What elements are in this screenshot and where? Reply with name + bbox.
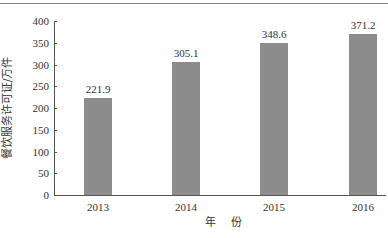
x-axis [54, 195, 386, 196]
bar-2016 [349, 34, 377, 195]
bar-value-label: 305.1 [161, 48, 211, 59]
bar-2015 [260, 43, 288, 195]
y-tick [54, 173, 57, 174]
y-tick-label: 200 [19, 103, 49, 114]
y-tick [54, 195, 57, 196]
x-tick-label: 2013 [73, 201, 123, 213]
y-tick-label: 150 [19, 125, 49, 136]
y-tick [54, 108, 57, 109]
y-tick-label: 300 [19, 60, 49, 71]
y-tick [54, 130, 57, 131]
x-tick-label: 2016 [338, 201, 388, 213]
y-tick [54, 43, 57, 44]
y-tick-label: 0 [19, 190, 49, 201]
y-tick [54, 152, 57, 153]
bar-2013 [84, 98, 112, 195]
y-tick [54, 86, 57, 87]
y-tick-label: 250 [19, 81, 49, 92]
bar-value-label: 371.2 [338, 20, 388, 31]
y-tick-label: 400 [19, 16, 49, 27]
y-tick-label: 350 [19, 38, 49, 49]
bar-chart: 餐饮服务许可证/万件 年 份 050100150200250300350400 … [0, 0, 388, 238]
x-axis-label: 年 份 [205, 213, 249, 229]
y-tick [54, 21, 57, 22]
bar-value-label: 348.6 [249, 29, 299, 40]
bar-value-label: 221.9 [73, 84, 123, 95]
x-tick-label: 2015 [249, 201, 299, 213]
x-tick-label: 2014 [161, 201, 211, 213]
y-tick-label: 100 [19, 147, 49, 158]
bar-2014 [172, 62, 200, 195]
y-tick-label: 50 [19, 168, 49, 179]
y-tick [54, 65, 57, 66]
